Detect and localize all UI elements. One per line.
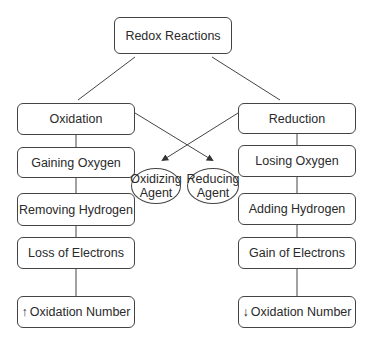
reducing-agent-ellipse: Reducing Agent bbox=[187, 168, 239, 204]
gaining-oxygen-box: Gaining Oxygen bbox=[17, 147, 135, 178]
decrease-oxidation-number-box: ↓ Oxidation Number bbox=[238, 296, 356, 328]
oxidizing-agent-line1: Oxidizing bbox=[130, 172, 181, 186]
losing-oxygen-box: Losing Oxygen bbox=[238, 145, 356, 177]
loss-of-electrons-box: Loss of Electrons bbox=[17, 237, 135, 269]
oxidation-label: Oxidation bbox=[50, 112, 103, 126]
removing-hydrogen-label: Removing Hydrogen bbox=[19, 203, 133, 217]
loss-of-electrons-label: Loss of Electrons bbox=[28, 246, 124, 260]
removing-hydrogen-box: Removing Hydrogen bbox=[17, 193, 135, 226]
down-arrow-icon: ↓ bbox=[243, 305, 249, 319]
up-arrow-icon: ↑ bbox=[22, 305, 28, 319]
title-label: Redox Reactions bbox=[125, 29, 220, 43]
adding-hydrogen-box: Adding Hydrogen bbox=[238, 193, 356, 225]
adding-hydrogen-label: Adding Hydrogen bbox=[249, 202, 346, 216]
gain-of-electrons-label: Gain of Electrons bbox=[249, 246, 345, 260]
increase-oxidation-number-box: ↑ Oxidation Number bbox=[17, 296, 135, 328]
decrease-oxidation-number-label: Oxidation Number bbox=[251, 305, 352, 319]
losing-oxygen-label: Losing Oxygen bbox=[255, 154, 338, 168]
oxidizing-agent-ellipse: Oxidizing Agent bbox=[131, 168, 181, 204]
gaining-oxygen-label: Gaining Oxygen bbox=[31, 156, 121, 170]
gain-of-electrons-box: Gain of Electrons bbox=[238, 237, 356, 269]
reduction-box: Reduction bbox=[238, 103, 356, 134]
reducing-agent-line2: Agent bbox=[187, 186, 240, 200]
oxidizing-agent-line2: Agent bbox=[130, 186, 181, 200]
title-box: Redox Reactions bbox=[114, 17, 232, 54]
oxidation-box: Oxidation bbox=[17, 103, 135, 135]
reducing-agent-line1: Reducing bbox=[187, 172, 240, 186]
reduction-label: Reduction bbox=[269, 112, 325, 126]
increase-oxidation-number-label: Oxidation Number bbox=[30, 305, 131, 319]
